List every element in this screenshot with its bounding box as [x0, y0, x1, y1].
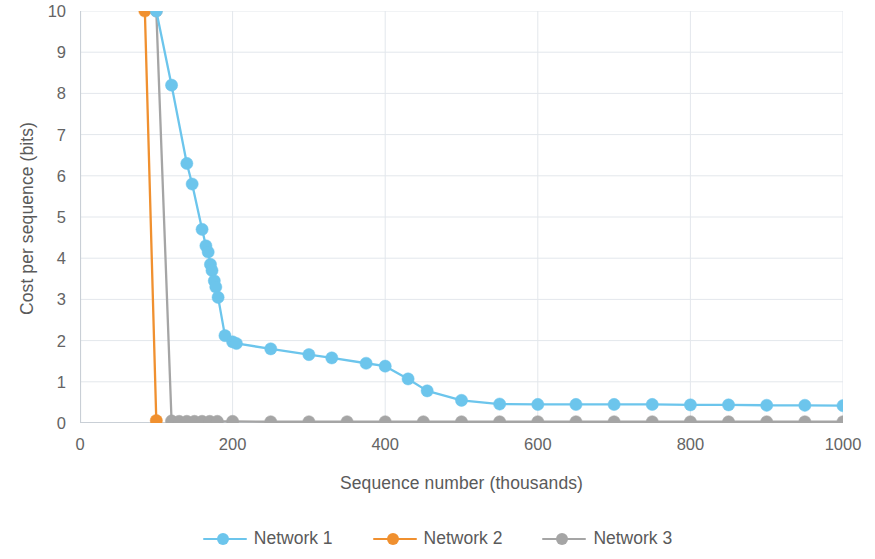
data-point-marker [761, 399, 773, 411]
data-point-marker [646, 398, 658, 410]
data-point-marker [186, 178, 198, 190]
data-point-marker [341, 416, 353, 423]
y-tick-label: 7 [26, 126, 66, 143]
y-tick-label: 9 [26, 44, 66, 61]
y-tick-label: 10 [26, 3, 66, 20]
data-point-marker [150, 414, 162, 423]
data-point-marker [570, 398, 582, 410]
y-tick-label: 0 [26, 415, 66, 432]
y-tick-label: 3 [26, 291, 66, 308]
x-tick-label: 600 [524, 436, 552, 453]
data-point-marker [139, 11, 151, 17]
legend-swatch-icon [373, 531, 417, 547]
plot-canvas [80, 11, 843, 423]
data-point-marker [402, 373, 414, 385]
legend-swatch-icon [203, 531, 247, 547]
data-point-marker [608, 398, 620, 410]
y-tick-label: 8 [26, 85, 66, 102]
data-point-marker [455, 394, 467, 406]
x-tick-label: 1000 [825, 436, 862, 453]
data-point-marker [379, 416, 391, 423]
legend-item-network-1[interactable]: Network 1 [203, 528, 333, 549]
data-point-marker [202, 246, 214, 258]
data-point-marker [303, 416, 315, 423]
data-point-marker [165, 79, 177, 91]
series-network-1 [150, 11, 843, 412]
legend-item-network-3[interactable]: Network 3 [542, 528, 672, 549]
legend-label: Network 3 [593, 528, 672, 549]
series-line [156, 11, 843, 406]
data-point-marker [150, 11, 162, 17]
x-axis-title: Sequence number (thousands) [80, 473, 843, 494]
x-tick-label: 0 [75, 436, 84, 453]
legend-marker-dot [217, 533, 229, 545]
data-point-marker [837, 400, 843, 412]
data-point-marker [494, 416, 506, 423]
legend-marker-dot [387, 533, 399, 545]
data-point-marker [646, 416, 658, 423]
cost-per-sequence-chart: Cost per sequence (bits) 109876543210 02… [0, 0, 875, 559]
data-point-marker [181, 157, 193, 169]
legend-label: Network 2 [424, 528, 503, 549]
data-point-marker [265, 343, 277, 355]
data-point-marker [799, 416, 811, 423]
y-axis-tick-labels: 109876543210 [22, 0, 66, 559]
plot-area [80, 11, 843, 423]
data-point-marker [722, 399, 734, 411]
data-point-marker [212, 291, 224, 303]
series-line [145, 11, 156, 421]
data-point-marker [196, 223, 208, 235]
data-point-marker [455, 416, 467, 423]
data-point-marker [722, 416, 734, 423]
legend-swatch-icon [542, 531, 586, 547]
data-point-marker [761, 416, 773, 423]
x-tick-label: 400 [371, 436, 399, 453]
data-point-marker [608, 416, 620, 423]
data-point-marker [303, 349, 315, 361]
data-point-marker [837, 416, 843, 423]
y-tick-label: 6 [26, 168, 66, 185]
data-point-marker [494, 398, 506, 410]
series-line [156, 11, 843, 422]
legend-label: Network 1 [254, 528, 333, 549]
gridlines [80, 11, 843, 423]
data-point-marker [360, 357, 372, 369]
data-point-marker [265, 416, 277, 423]
data-point-marker [684, 416, 696, 423]
chart-legend: Network 1Network 2Network 3 [0, 528, 875, 549]
y-tick-label: 4 [26, 250, 66, 267]
data-point-marker [227, 415, 239, 423]
y-tick-label: 1 [26, 374, 66, 391]
legend-item-network-2[interactable]: Network 2 [373, 528, 503, 549]
legend-marker-dot [556, 533, 568, 545]
y-tick-label: 2 [26, 332, 66, 349]
data-point-marker [230, 337, 242, 349]
data-point-marker [684, 399, 696, 411]
data-point-marker [799, 399, 811, 411]
x-tick-label: 800 [677, 436, 705, 453]
x-tick-label: 200 [219, 436, 247, 453]
data-point-marker [532, 398, 544, 410]
data-point-marker [570, 416, 582, 423]
data-point-marker [326, 352, 338, 364]
data-point-marker [417, 416, 429, 423]
data-point-marker [532, 416, 544, 423]
y-tick-label: 5 [26, 209, 66, 226]
data-point-marker [421, 385, 433, 397]
data-point-marker [379, 360, 391, 372]
